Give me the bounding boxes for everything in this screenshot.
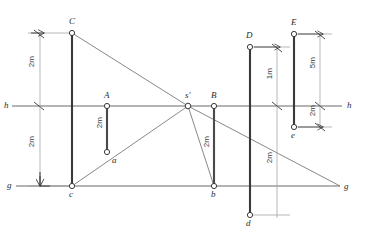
label-D: D: [246, 31, 253, 40]
dim-arrow-g-left: [40, 176, 50, 186]
label-horizon-right: h: [347, 101, 352, 110]
label-d: d: [246, 219, 251, 228]
dimtext-D-to-h: 1m: [266, 68, 274, 79]
label-E: E: [291, 18, 297, 27]
label-B: B: [211, 91, 217, 100]
point-D: [247, 44, 252, 49]
label-c: c: [69, 190, 73, 199]
figure-canvas: C c A a s' B b D d E e h h g g 2m 2m 2m …: [0, 0, 365, 250]
dimtext-E-to-h: 5m: [309, 57, 317, 68]
point-B: [211, 103, 216, 108]
label-b: b: [211, 190, 216, 199]
point-a: [104, 149, 109, 154]
label-horizon-left: h: [4, 101, 9, 110]
point-c: [69, 183, 74, 188]
dimtext-B-to-b: 2m: [203, 136, 211, 147]
point-s-prime: [185, 103, 191, 109]
dimtext-A-to-a: 2m: [96, 117, 104, 128]
label-ground-right: g: [344, 182, 349, 191]
label-A: A: [104, 91, 110, 100]
point-A: [104, 103, 109, 108]
point-b: [211, 183, 216, 188]
point-d: [247, 212, 252, 217]
point-E: [291, 31, 296, 36]
drawing-layer: [0, 0, 365, 250]
label-e: e: [291, 131, 295, 140]
label-a: a: [112, 156, 117, 165]
dimtext-C-to-h: 2m: [28, 56, 36, 67]
dim-arrow-C-top: [34, 30, 44, 38]
dimtext-d-to-g: 2m: [266, 152, 274, 163]
dimtext-h-to-e: 2m: [309, 105, 317, 116]
point-e: [291, 124, 296, 129]
label-ground-left: g: [7, 181, 12, 190]
ray-C-to-s-prime: [72, 33, 188, 106]
dimtext-h-to-g: 2m: [28, 136, 36, 147]
label-C: C: [69, 17, 75, 26]
point-C: [69, 30, 74, 35]
label-s-prime: s': [185, 91, 190, 100]
ray-c-to-s-prime: [72, 106, 188, 186]
